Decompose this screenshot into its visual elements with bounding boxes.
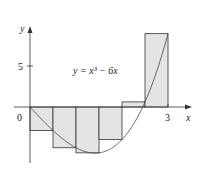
x-axis-arrow-icon xyxy=(185,105,192,110)
y-tick-label-5: 5 xyxy=(18,61,23,72)
x-axis-label: x xyxy=(185,112,191,123)
y-axis-arrow-icon xyxy=(28,26,33,33)
riemann-rectangle-4 xyxy=(99,107,122,140)
y-axis-label: y xyxy=(19,23,25,34)
x-tick-label-3: 3 xyxy=(165,112,170,123)
riemann-rectangle-2 xyxy=(53,107,76,148)
riemann-rectangles xyxy=(30,34,168,153)
origin-label: 0 xyxy=(17,112,22,123)
riemann-rectangle-3 xyxy=(76,107,99,153)
equation-label: y = x³ − 6x xyxy=(72,65,118,76)
riemann-rectangle-5 xyxy=(122,102,145,107)
riemann-sum-diagram: y x 0 3 5 y = x³ − 6x xyxy=(0,0,203,171)
